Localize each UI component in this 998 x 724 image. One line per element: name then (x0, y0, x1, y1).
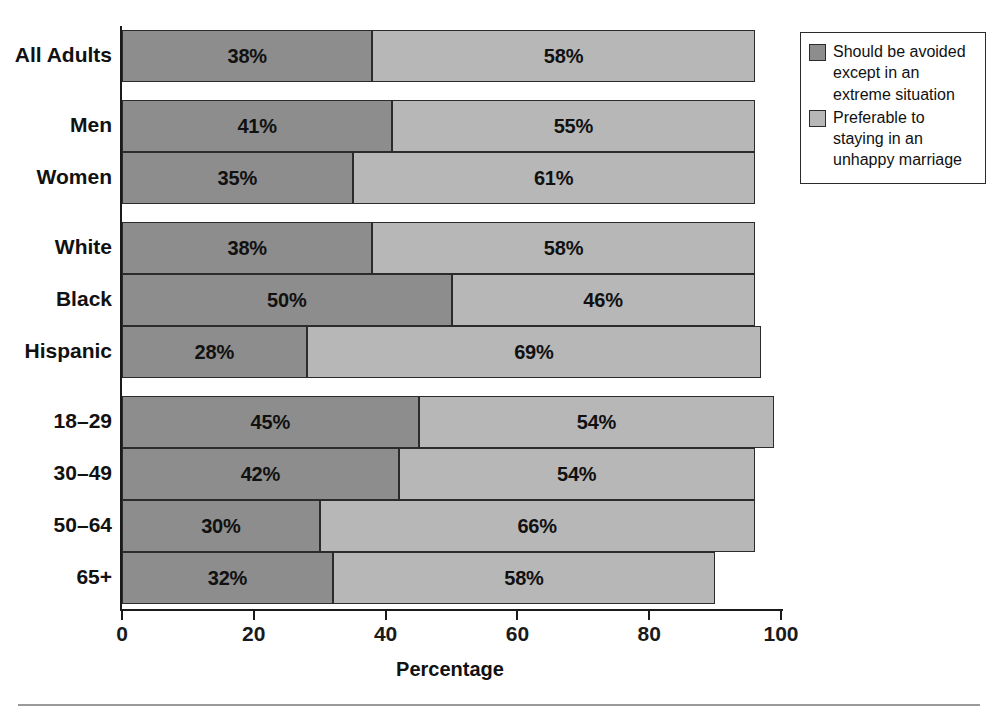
bar-segment-avoided[interactable]: 30% (122, 500, 320, 552)
y-axis-line (120, 26, 122, 610)
bar-segment-avoided[interactable]: 42% (122, 448, 399, 500)
bar-value-label: 41% (237, 115, 276, 138)
bar-segment-avoided[interactable]: 45% (122, 396, 419, 448)
bar-segment-avoided[interactable]: 50% (122, 274, 452, 326)
bar-segment-avoided[interactable]: 28% (122, 326, 307, 378)
bar-segment-preferable[interactable]: 58% (372, 222, 754, 274)
x-tick-100 (780, 611, 782, 620)
legend-label-avoided: Should be avoided except in an extreme s… (833, 41, 977, 105)
bar-segment-preferable[interactable]: 69% (307, 326, 762, 378)
bar-segment-avoided[interactable]: 41% (122, 100, 392, 152)
bar-segment-preferable[interactable]: 54% (419, 396, 775, 448)
x-tick-60 (516, 611, 518, 620)
bar-value-label: 58% (544, 237, 583, 260)
x-tick-label-80: 80 (638, 622, 661, 646)
bar-value-label: 66% (517, 515, 556, 538)
bar-segment-avoided[interactable]: 32% (122, 552, 333, 604)
bar-value-label: 28% (195, 341, 234, 364)
bar-segment-avoided[interactable]: 35% (122, 152, 353, 204)
category-label-50-64: 50–64 (0, 513, 112, 537)
bottom-divider (18, 704, 980, 706)
stacked-bar-chart: 38%58%41%55%35%61%38%58%50%46%28%69%45%5… (0, 0, 998, 724)
bar-segment-avoided[interactable]: 38% (122, 30, 372, 82)
legend-item-preferable[interactable]: Preferable to staying in an unhappy marr… (809, 107, 977, 171)
bar-row: 28%69% (122, 326, 782, 378)
chart-legend: Should be avoided except in an extreme s… (800, 32, 986, 184)
legend-label-preferable: Preferable to staying in an unhappy marr… (833, 107, 977, 171)
category-label-men: Men (0, 113, 112, 137)
category-label-white: White (0, 235, 112, 259)
category-label-black: Black (0, 287, 112, 311)
legend-item-avoided[interactable]: Should be avoided except in an extreme s… (809, 41, 977, 105)
bar-value-label: 58% (504, 567, 543, 590)
bar-value-label: 35% (218, 167, 257, 190)
x-tick-20 (253, 611, 255, 620)
bar-segment-preferable[interactable]: 58% (333, 552, 715, 604)
bar-value-label: 50% (267, 289, 306, 312)
x-tick-label-0: 0 (116, 622, 128, 646)
bar-row: 50%46% (122, 274, 782, 326)
x-tick-0 (121, 611, 123, 620)
category-label-30-49: 30–49 (0, 461, 112, 485)
bar-value-label: 38% (227, 237, 266, 260)
bar-row: 38%58% (122, 222, 782, 274)
x-tick-label-20: 20 (242, 622, 265, 646)
legend-swatch-dark (809, 44, 826, 61)
bar-value-label: 55% (554, 115, 593, 138)
bar-value-label: 45% (251, 411, 290, 434)
bar-row: 30%66% (122, 500, 782, 552)
x-tick-label-40: 40 (374, 622, 397, 646)
plot-area: 38%58%41%55%35%61%38%58%50%46%28%69%45%5… (122, 26, 782, 610)
x-axis-line (120, 609, 783, 611)
bar-row: 38%58% (122, 30, 782, 82)
bar-segment-preferable[interactable]: 61% (353, 152, 755, 204)
bar-row: 45%54% (122, 396, 782, 448)
bar-value-label: 32% (208, 567, 247, 590)
legend-swatch-light (809, 110, 826, 127)
bar-value-label: 38% (227, 45, 266, 68)
bar-segment-avoided[interactable]: 38% (122, 222, 372, 274)
bar-value-label: 54% (557, 463, 596, 486)
bar-value-label: 30% (201, 515, 240, 538)
bar-value-label: 61% (534, 167, 573, 190)
bar-value-label: 58% (544, 45, 583, 68)
category-label-18-29: 18–29 (0, 409, 112, 433)
bar-segment-preferable[interactable]: 46% (452, 274, 755, 326)
bar-segment-preferable[interactable]: 54% (399, 448, 755, 500)
bar-segment-preferable[interactable]: 58% (372, 30, 754, 82)
bar-row: 41%55% (122, 100, 782, 152)
bar-row: 32%58% (122, 552, 782, 604)
x-tick-label-100: 100 (763, 622, 798, 646)
x-tick-40 (385, 611, 387, 620)
bar-value-label: 69% (514, 341, 553, 364)
bar-value-label: 42% (241, 463, 280, 486)
x-tick-label-60: 60 (506, 622, 529, 646)
bar-value-label: 46% (583, 289, 622, 312)
category-label-65: 65+ (0, 565, 112, 589)
x-axis-title: Percentage (0, 658, 900, 681)
category-label-all-adults: All Adults (0, 43, 112, 67)
category-label-women: Women (0, 165, 112, 189)
bar-segment-preferable[interactable]: 66% (320, 500, 755, 552)
bar-value-label: 54% (577, 411, 616, 434)
bar-row: 42%54% (122, 448, 782, 500)
category-label-hispanic: Hispanic (0, 339, 112, 363)
bar-segment-preferable[interactable]: 55% (392, 100, 754, 152)
x-tick-80 (648, 611, 650, 620)
bar-row: 35%61% (122, 152, 782, 204)
